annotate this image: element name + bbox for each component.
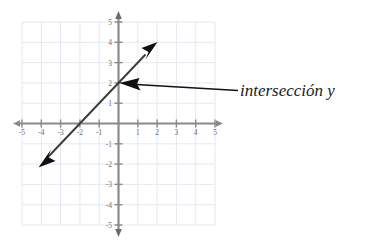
plotted-line-series bbox=[39, 42, 158, 168]
y-axis-arrow-up-icon bbox=[115, 11, 122, 19]
coordinate-plane: -5 -4 -3 -2 -1 1 2 3 4 5 5 4 3 2 1 -1 -2… bbox=[0, 0, 379, 242]
y-tick-label: 3 bbox=[108, 59, 112, 68]
y-tick-label: -2 bbox=[106, 160, 112, 169]
y-tick-label: -5 bbox=[106, 221, 112, 230]
graph-figure: -5 -4 -3 -2 -1 1 2 3 4 5 5 4 3 2 1 -1 -2… bbox=[0, 0, 379, 242]
y-tick-label: 2 bbox=[108, 79, 112, 88]
x-tick-label: 5 bbox=[213, 128, 217, 137]
y-tick-label: -1 bbox=[106, 140, 112, 149]
x-tick-label: -1 bbox=[96, 128, 102, 137]
y-tick-label: 1 bbox=[108, 99, 112, 108]
y-tick-label: 4 bbox=[108, 38, 112, 47]
annotation-pointer bbox=[120, 78, 239, 91]
x-tick-label: 4 bbox=[194, 128, 198, 137]
axes bbox=[13, 11, 223, 237]
y-axis-arrow-down-icon bbox=[115, 229, 122, 237]
x-tick-label: 1 bbox=[136, 128, 140, 137]
y-tick-label: -4 bbox=[106, 201, 112, 210]
y-tick-label: 5 bbox=[108, 18, 112, 27]
annotation-label: intersección y bbox=[240, 81, 335, 100]
x-tick-label: 2 bbox=[155, 128, 159, 137]
x-tick-label: -3 bbox=[57, 128, 63, 137]
x-axis-arrow-icon bbox=[216, 120, 223, 126]
x-axis-arrow-left-icon bbox=[13, 120, 20, 126]
x-tick-label: -5 bbox=[19, 128, 25, 137]
x-tick-label: -2 bbox=[77, 128, 83, 137]
y-tick-label: -3 bbox=[106, 180, 112, 189]
x-tick-label: -4 bbox=[38, 128, 44, 137]
annotation-leader-line bbox=[136, 85, 238, 91]
x-tick-label: 3 bbox=[175, 128, 179, 137]
line-graph bbox=[47, 55, 145, 159]
